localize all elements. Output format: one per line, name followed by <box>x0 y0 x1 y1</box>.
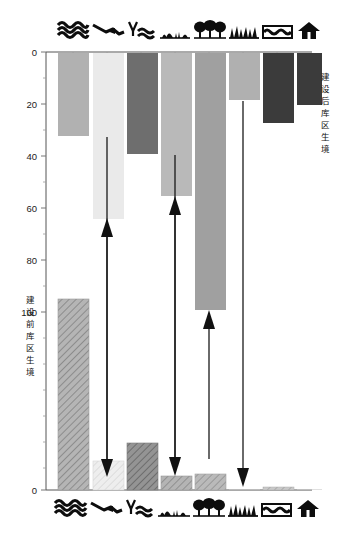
lower-bar-group <box>58 299 322 490</box>
marsh-reed-icon <box>129 22 154 38</box>
sparse-scrub-icon-bottom <box>158 510 190 516</box>
y-tick-20: 20 <box>26 99 46 110</box>
upper-axis-label-c4: 库 <box>321 108 330 118</box>
connector-arrow-shoreline-slope <box>101 218 113 462</box>
y-tick-label-40: 40 <box>26 151 37 162</box>
bar-lower-marsh-shrub[interactable] <box>127 443 158 490</box>
mirrored-bar-chart: 0 20 40 60 80 100 <box>0 0 344 537</box>
lower-axis-label-c7: 境 <box>26 367 35 377</box>
bar-upper-terrace-field[interactable] <box>263 53 294 123</box>
lower-axis-label-c3: 前 <box>26 319 35 329</box>
bottom-icon-row <box>55 498 319 517</box>
bar-upper-marsh-shrub[interactable] <box>127 53 158 154</box>
grass-icon <box>229 26 259 38</box>
bar-lower-grassland[interactable] <box>229 489 260 490</box>
connector-arrow-forest-trees <box>203 310 215 459</box>
water-waves-icon-bottom <box>55 501 86 516</box>
connector-arrow-sparse-scrub <box>169 196 181 460</box>
trees-icon <box>194 20 226 38</box>
trees-icon-bottom <box>193 498 225 516</box>
y-tick-label-60: 60 <box>26 203 37 214</box>
y-tick-80: 80 <box>26 255 46 266</box>
top-icon-row <box>58 20 320 39</box>
water-waves-icon <box>58 23 88 38</box>
upper-bar-group <box>58 53 322 310</box>
y-tick-label-20: 20 <box>26 99 37 110</box>
upper-axis-label-group: 建 设 后 库 区 生 境 <box>321 72 330 154</box>
bar-lower-terrace-field[interactable] <box>263 487 294 490</box>
upper-axis-label-c3: 后 <box>321 96 330 106</box>
y-tick-label-80: 80 <box>26 255 37 266</box>
bar-upper-shoreline-slope[interactable] <box>93 53 124 219</box>
bar-upper-grassland[interactable] <box>229 53 260 100</box>
upper-axis-label-c2: 设 <box>321 84 330 94</box>
bar-lower-open-water[interactable] <box>58 299 89 490</box>
upper-axis-label-c6: 生 <box>321 132 330 142</box>
bar-lower-sparse-scrub[interactable] <box>161 476 192 490</box>
y-tick-0: 0 <box>32 47 46 58</box>
lower-axis-label-c1: 建 <box>26 295 35 305</box>
terrace-field-icon-bottom <box>262 504 291 516</box>
y-tick-40: 40 <box>26 151 46 162</box>
terrace-field-icon <box>263 26 292 38</box>
house-icon <box>298 22 320 39</box>
sparse-scrub-icon <box>160 32 190 38</box>
figure-canvas: 0 20 40 60 80 100 <box>0 0 344 537</box>
bar-upper-settlement-house[interactable] <box>297 53 322 105</box>
shore-slope-icon-bottom <box>91 503 122 512</box>
grass-icon-bottom <box>228 504 258 516</box>
house-icon-bottom <box>297 500 319 517</box>
bar-upper-open-water[interactable] <box>58 53 89 136</box>
y-tick-label-0: 0 <box>32 47 37 58</box>
shore-slope-icon <box>93 25 124 34</box>
lower-axis-label-c2: 设 <box>26 307 35 317</box>
y-bottom-tick-label-0: 0 <box>32 485 37 496</box>
upper-axis-label-c5: 区 <box>321 120 330 130</box>
connector-arrow-grassland <box>237 101 249 487</box>
bar-lower-forest-trees[interactable] <box>195 474 226 490</box>
marsh-reed-icon-bottom <box>127 500 152 516</box>
upper-axis-label-c1: 建 <box>321 72 330 82</box>
lower-axis-label-c5: 区 <box>26 343 35 353</box>
lower-axis-label-c6: 生 <box>26 355 35 365</box>
upper-axis-label-c7: 境 <box>321 144 330 154</box>
bar-upper-forest-trees[interactable] <box>195 53 226 310</box>
lower-axis-label-c4: 库 <box>26 331 35 341</box>
bar-upper-sparse-scrub[interactable] <box>161 53 192 196</box>
lower-axis-label-group: 建 设 前 库 区 生 境 <box>26 295 35 377</box>
bar-lower-settlement-house[interactable] <box>297 489 322 490</box>
y-tick-60: 60 <box>26 203 46 214</box>
